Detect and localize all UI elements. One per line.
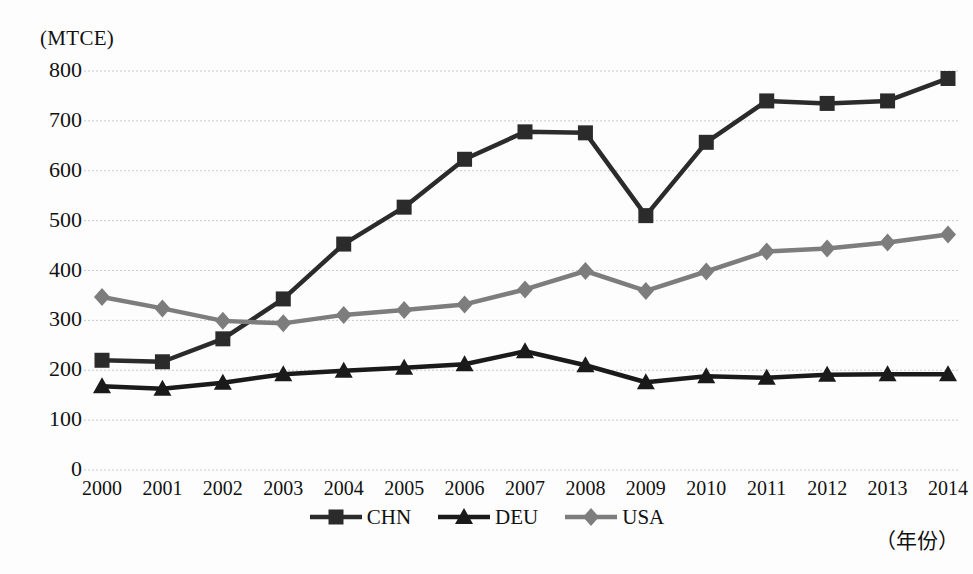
square-marker	[457, 152, 472, 167]
diamond-marker	[154, 299, 170, 317]
triangle-marker	[516, 342, 534, 358]
square-marker	[578, 125, 593, 140]
square-marker	[155, 354, 170, 369]
diamond-marker	[457, 295, 473, 313]
square-marker	[328, 510, 343, 525]
square-marker	[699, 135, 714, 150]
series-deu	[93, 342, 957, 395]
series-usa	[94, 226, 956, 333]
square-marker	[518, 124, 533, 139]
diamond-marker	[275, 314, 291, 332]
diamond-marker	[819, 240, 835, 258]
square-marker	[759, 93, 774, 108]
x-axis-title: （年份）	[875, 524, 959, 554]
diamond-marker	[564, 506, 618, 528]
line-chart: (MTCE) 8007006005004003002001000 2000200…	[0, 0, 973, 574]
plot-area	[0, 0, 973, 574]
square-marker	[820, 96, 835, 111]
diamond-marker	[698, 262, 714, 280]
diamond-marker	[577, 262, 593, 280]
square-marker	[95, 353, 110, 368]
legend-label: USA	[622, 507, 664, 528]
triangle-marker	[437, 506, 491, 528]
legend-item-usa[interactable]: USA	[564, 506, 664, 528]
square-marker	[638, 208, 653, 223]
diamond-marker	[880, 234, 896, 252]
diamond-marker	[336, 306, 352, 324]
diamond-marker	[517, 280, 533, 298]
legend-label: CHN	[367, 507, 411, 528]
square-marker	[276, 291, 291, 306]
diamond-marker	[396, 301, 412, 319]
legend-item-deu[interactable]: DEU	[437, 506, 538, 528]
chart-legend: CHNDEUUSA	[0, 506, 973, 528]
square-marker	[309, 506, 363, 528]
diamond-marker	[638, 282, 654, 300]
data-series-layer	[93, 71, 957, 396]
square-marker	[880, 93, 895, 108]
square-marker	[215, 331, 230, 346]
square-marker	[941, 71, 956, 86]
diamond-marker	[94, 288, 110, 306]
diamond-marker	[759, 243, 775, 261]
diamond-marker	[215, 312, 231, 330]
legend-item-chn[interactable]: CHN	[309, 506, 411, 528]
square-marker	[397, 200, 412, 215]
legend-label: DEU	[495, 507, 538, 528]
diamond-marker	[583, 508, 599, 526]
square-marker	[336, 237, 351, 252]
diamond-marker	[940, 226, 956, 244]
